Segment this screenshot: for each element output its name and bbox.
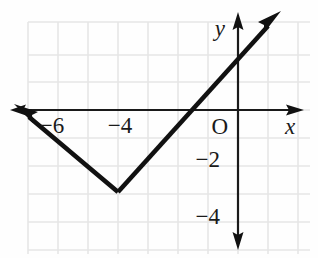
x-tick-label-neg6: −6 [40, 113, 64, 138]
y-axis-label: y [213, 16, 226, 41]
y-tick-label-neg4: −4 [196, 204, 221, 229]
x-axis-label: x [284, 114, 296, 139]
x-tick-label-neg4: −4 [108, 113, 133, 138]
axis-labels: −6 −4 −2 −4 O x y [40, 16, 296, 229]
origin-label: O [211, 114, 228, 139]
y-tick-label-neg2: −2 [196, 147, 220, 172]
graph-figure: −6 −4 −2 −4 O x y [0, 0, 318, 258]
coordinate-plane-svg: −6 −4 −2 −4 O x y [0, 0, 318, 258]
